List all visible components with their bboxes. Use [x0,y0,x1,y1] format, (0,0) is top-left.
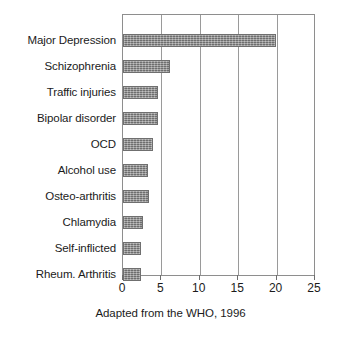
bar [123,190,149,203]
category-label: Alcohol use [0,164,116,177]
bar [123,164,148,177]
category-label: Chlamydia [0,216,116,229]
bar [123,138,153,151]
bar-chart-figure: Major Depression Schizophrenia Traffic i… [0,0,341,338]
category-label: Bipolar disorder [0,112,116,125]
category-label: Major Depression [0,34,116,47]
figure-caption: Adapted from the WHO, 1996 [0,306,341,320]
category-label: OCD [0,138,116,151]
bar [123,242,141,255]
category-label: Schizophrenia [0,60,116,73]
plot-area [122,14,315,276]
bar [123,34,276,47]
category-label: Rheum. Arthritis [0,268,116,281]
gridline [161,15,162,275]
gridline [277,15,278,275]
bar [123,216,143,229]
x-axis: 0510152025 [122,275,315,301]
x-tick [314,275,315,280]
bar [123,60,170,73]
x-tick [199,275,200,280]
x-tick [122,275,123,280]
x-tick [276,275,277,280]
category-label: Osteo-arthritis [0,190,116,203]
gridline [200,15,201,275]
x-tick [160,275,161,280]
x-tick-label: 0 [119,281,126,295]
x-tick [237,275,238,280]
x-tick-label: 20 [269,281,282,295]
bar [123,86,158,99]
x-tick-label: 15 [231,281,244,295]
category-label: Self-inflicted [0,242,116,255]
category-label: Traffic injuries [0,86,116,99]
bar [123,112,158,125]
x-tick-label: 25 [307,281,320,295]
x-tick-label: 10 [192,281,205,295]
category-axis-labels: Major Depression Schizophrenia Traffic i… [0,14,116,276]
x-tick-label: 5 [157,281,164,295]
gridline [238,15,239,275]
